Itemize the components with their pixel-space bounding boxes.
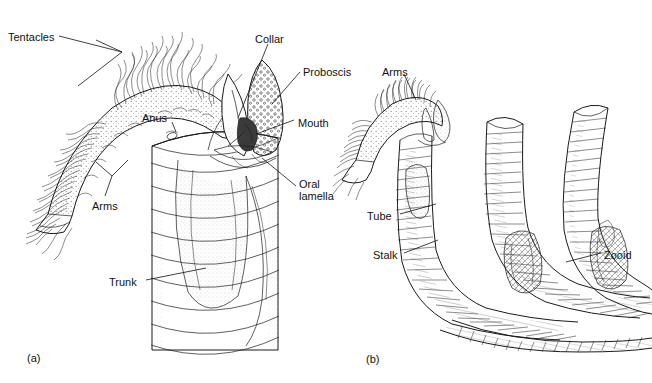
- label-stalk: Stalk: [373, 249, 397, 261]
- label-trunk: Trunk: [109, 276, 137, 288]
- label-collar: Collar: [255, 33, 284, 45]
- label-zooid: Zooid: [604, 249, 632, 261]
- label-tube: Tube: [367, 210, 392, 222]
- label-arms-a: Arms: [92, 200, 118, 212]
- label-tentacles: Tentacles: [8, 31, 54, 43]
- panel-b-zooid-arms: [333, 77, 450, 200]
- panel-b-tube-right: [563, 105, 652, 314]
- label-anus: Anus: [142, 112, 167, 124]
- label-mouth: Mouth: [298, 117, 329, 129]
- panel-caption-b: (b): [366, 353, 379, 365]
- label-arms-b: Arms: [382, 66, 408, 78]
- label-oral-lamella: Oral lamella: [299, 178, 334, 202]
- panel-caption-a: (a): [27, 352, 40, 364]
- panel-b-tube-left: [396, 134, 578, 340]
- panel-b-tube-middle: [484, 117, 650, 318]
- figure-container: Tentacles Anus Arms Trunk Collar Probosc…: [0, 0, 652, 383]
- label-proboscis: Proboscis: [303, 66, 351, 78]
